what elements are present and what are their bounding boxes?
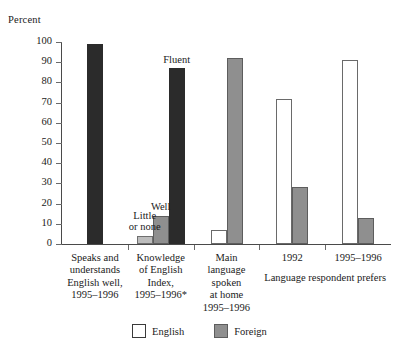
bar (342, 60, 358, 244)
legend-label-english: English (152, 326, 184, 337)
legend-item-english: English (132, 324, 184, 338)
y-tick (56, 244, 62, 245)
y-axis-title: Percent (8, 14, 41, 25)
bar-chart: Percent 0102030405060708090100 Speaks an… (0, 0, 399, 361)
y-tick-label: 20 (4, 198, 52, 209)
bar (137, 236, 153, 244)
x-group-label: Knowledgeof EnglishIndex,1995–1996* (128, 252, 194, 302)
legend-swatch-english (132, 324, 146, 338)
bar (292, 187, 308, 244)
x-tick (194, 245, 195, 250)
y-tick-label: 50 (4, 137, 52, 148)
bar (358, 218, 374, 244)
y-tick-label: 90 (4, 56, 52, 67)
bar (276, 99, 292, 244)
y-tick-label: 70 (4, 97, 52, 108)
bar (87, 44, 103, 244)
x-tick (259, 245, 260, 250)
y-tick-label: 80 (4, 76, 52, 87)
x-group-label: Speaks andunderstandsEnglish well,1995–1… (62, 252, 128, 302)
x-group-label: 1992 (259, 252, 325, 264)
bar-annotation: Well (121, 201, 201, 213)
x-axis-line (61, 244, 391, 245)
bar (211, 230, 227, 244)
x-tick (128, 245, 129, 250)
x-group-label: Mainlanguagespokenat home1995–1996 (194, 252, 260, 314)
bar-annotation: Fluent (137, 54, 217, 66)
legend-label-foreign: Foreign (234, 326, 267, 337)
legend-swatch-foreign (214, 324, 228, 338)
bottom-group-label: Language respondent prefers (259, 272, 391, 283)
y-tick-label: 60 (4, 117, 52, 128)
legend-item-foreign: Foreign (214, 324, 267, 338)
x-tick (325, 245, 326, 250)
y-tick-label: 10 (4, 218, 52, 229)
y-tick-label: 30 (4, 177, 52, 188)
bar (227, 58, 243, 244)
bar-annotation: Littleor none (105, 210, 185, 233)
y-tick-label: 40 (4, 157, 52, 168)
y-tick-label: 0 (4, 238, 52, 249)
x-group-label: 1995–1996 (325, 252, 391, 264)
legend: English Foreign (0, 324, 399, 338)
y-tick-label: 100 (4, 36, 52, 47)
